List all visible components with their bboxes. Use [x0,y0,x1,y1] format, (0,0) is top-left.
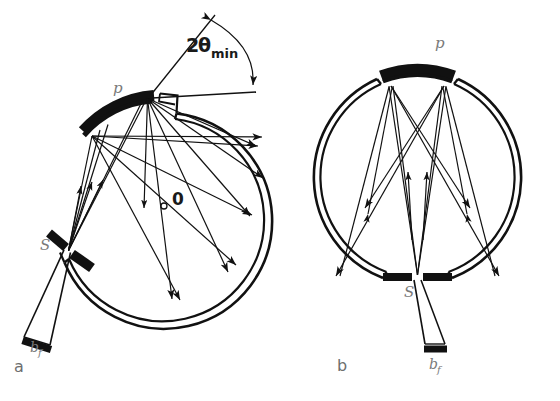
angle-label-min: min [211,46,238,61]
panel-b-crystal-label: p [435,34,445,52]
panel-b-source-label: S [404,283,414,301]
panel-a-beam-trap [24,250,71,345]
panel-a-converging-rays [69,180,104,251]
panel-b-label: b [337,356,347,375]
panel-a-label: a [14,357,24,376]
panel-a: p S 0 b f 2 θ min a [14,15,274,376]
panel-a-diffracted-rays-left [92,136,262,300]
panel-a-crystal-label: p [113,79,123,97]
panel-b-outer-rays [340,87,495,276]
panel-b-beam-label: b f [429,356,443,375]
panel-a-circle-center-marker [161,203,167,209]
diffraction-camera-figure: p S 0 b f 2 θ min a [0,0,560,401]
panel-b: p S b f b [314,34,521,375]
panel-b-diffracted-rays-right [336,86,444,276]
panel-b-diffracted-rays-left [391,86,499,276]
panel-b-crystal [381,69,454,81]
panel-a-angle-construction [150,15,256,98]
panel-a-angle-label: 2 θ min [186,34,238,61]
panel-b-beam-trap [414,280,445,344]
panel-b-film-band [314,79,521,278]
panel-a-source-label: S [40,236,50,254]
panel-a-crystal [83,96,154,136]
panel-b-incident-rays [389,86,446,275]
panel-b-incident-arrows [408,172,427,240]
panel-b-beam-label-sub: f [436,364,443,375]
panel-a-center-label: 0 [172,189,184,209]
angle-label-theta: θ [198,34,211,56]
